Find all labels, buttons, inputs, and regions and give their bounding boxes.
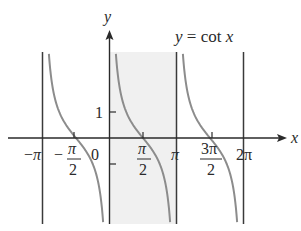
x-tick-label-2pi: 2π xyxy=(236,146,252,163)
svg-text:π: π xyxy=(68,140,77,157)
x-tick-label-pi: π xyxy=(171,146,180,163)
x-axis-label: x xyxy=(290,129,298,146)
y-tick-label-1: 1 xyxy=(95,104,103,121)
svg-text:2: 2 xyxy=(139,161,147,178)
svg-text:−: − xyxy=(54,146,63,163)
equation-label: y = cot x xyxy=(173,27,234,46)
cot-graph-figure: x y 1 −π − π 2 0 π 2 π 3π 2 2π y = cot x xyxy=(0,0,301,231)
svg-text:π: π xyxy=(138,140,147,157)
x-tick-label-zero: 0 xyxy=(91,146,99,163)
svg-text:2: 2 xyxy=(207,161,215,178)
svg-text:2: 2 xyxy=(69,161,77,178)
x-tick-label-neg-half-pi: − π 2 xyxy=(54,140,81,178)
x-tick-label-3-half-pi: 3π 2 xyxy=(200,140,222,178)
y-axis-label: y xyxy=(102,8,112,26)
svg-text:3π: 3π xyxy=(201,140,217,157)
x-tick-label-neg-pi: −π xyxy=(24,146,42,163)
